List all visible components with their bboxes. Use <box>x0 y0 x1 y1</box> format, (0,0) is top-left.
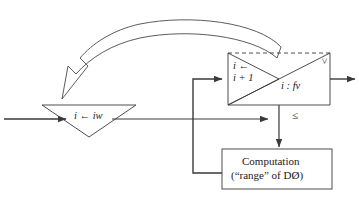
feedback-loop-line <box>193 79 222 173</box>
greater-than-edge-label: > <box>318 58 330 64</box>
compare-triangle-label: i : fv <box>281 80 300 91</box>
diagram-canvas: i ← i + 1 i : fv i ← iw > ≤ Computation … <box>0 0 359 197</box>
computation-box-line2: (“range” of DØ) <box>231 170 303 182</box>
diagram-svg <box>0 0 359 197</box>
assign-triangle-label: i ← iw <box>74 110 103 121</box>
counter-label-line2: i + 1 <box>233 72 254 83</box>
computation-box-line1: Computation <box>242 156 299 168</box>
less-equal-edge-label: ≤ <box>292 110 298 122</box>
counter-triangle-label: i ← i + 1 <box>233 60 254 83</box>
counter-label-line1: i ← <box>233 60 249 71</box>
